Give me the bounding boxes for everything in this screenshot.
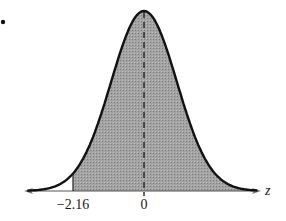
chart-canvas: −2.16 0 z <box>0 0 286 221</box>
shaded-area <box>73 11 257 191</box>
normal-distribution-figure: −2.16 0 z <box>0 0 286 221</box>
tick-label-zero: 0 <box>141 197 148 212</box>
bullet-marker <box>1 20 5 24</box>
axis-label-z: z <box>264 183 271 198</box>
tick-label-neg-2-16: −2.16 <box>57 197 89 212</box>
